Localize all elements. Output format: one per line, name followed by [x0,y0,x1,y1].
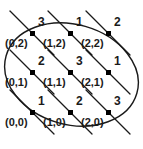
point-weight-label: 3 [76,55,83,67]
point-marker-icon [106,31,111,36]
point-marker-icon [30,70,35,75]
point-marker-icon [30,31,35,36]
point-marker-icon [68,110,73,115]
point-weight-label: 3 [38,16,45,28]
point-coordinate-label: (1,2) [43,37,66,49]
point-weight-label: 1 [76,16,83,28]
point-weight-label: 2 [38,55,45,67]
point-coordinate-label: (1,1) [43,76,66,88]
point-marker-icon [30,110,35,115]
point-coordinate-label: (0,1) [5,76,28,88]
point-weight-label: 1 [38,95,45,107]
point-coordinate-label: (0,0) [5,116,28,128]
point-weight-label: 2 [76,95,83,107]
point-coordinate-label: (1,0) [43,116,66,128]
point-marker-icon [106,70,111,75]
point-marker-icon [68,70,73,75]
point-coordinate-label: (0,2) [5,37,28,49]
point-weight-label: 1 [114,55,121,67]
point-coordinate-label: (2,2) [81,37,104,49]
point-marker-icon [106,110,111,115]
lattice-diagram: 3 (0,2) 1 (1,2) 2 (2,2) 2 (0,1) 3 (1,1) … [0,0,143,149]
lattice-point-layer: 3 (0,2) 1 (1,2) 2 (2,2) 2 (0,1) 3 (1,1) … [0,0,143,149]
point-coordinate-label: (2,0) [81,116,104,128]
point-weight-label: 3 [114,95,121,107]
point-weight-label: 2 [114,16,121,28]
point-coordinate-label: (2,1) [81,76,104,88]
point-marker-icon [68,31,73,36]
